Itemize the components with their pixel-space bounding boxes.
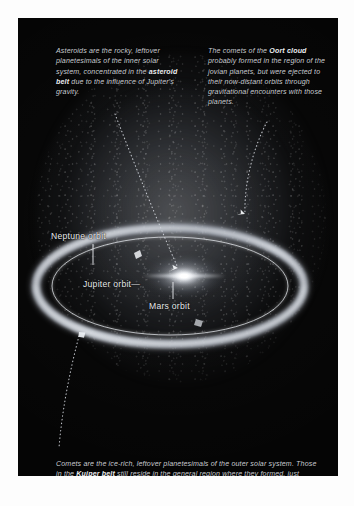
sun-inner-system (138, 250, 230, 302)
asteroid-belt-leader-line (115, 114, 178, 271)
label-neptune-orbit: Neptune orbit (51, 231, 106, 241)
caption-oort-before: The comets of the (208, 47, 269, 55)
caption-oort-cloud: The comets of the Oort cloud probably fo… (208, 46, 330, 108)
caption-asteroid-belt: Asteroids are the rocky, leftover planet… (56, 46, 184, 97)
caption-oort-after: probably formed in the region of the jov… (208, 57, 325, 106)
caption-asteroid-after: due to the influence of Jupiter's gravit… (56, 78, 174, 96)
kuiper-belt-leader-line (59, 332, 85, 448)
plate-footnote (20, 488, 220, 497)
caption-oort-term: Oort cloud (269, 47, 306, 55)
page-background: Asteroids are the rocky, leftover planet… (0, 0, 354, 506)
label-mars-orbit: Mars orbit (149, 301, 190, 311)
caption-asteroid-before: Asteroids are the rocky, leftover planet… (56, 47, 160, 76)
caption-kuiper-term: Kuiper belt (76, 470, 115, 476)
caption-kuiper-belt: Comets are the ice-rich, leftover planet… (56, 459, 322, 476)
oort-cloud-leader-line (237, 122, 267, 215)
astronomy-figure-plate: Asteroids are the rocky, leftover planet… (18, 18, 338, 476)
label-jupiter-orbit: Jupiter orbit— (83, 279, 140, 289)
